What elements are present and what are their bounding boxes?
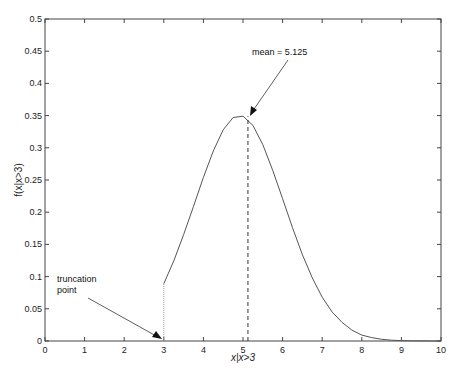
x-tick-label: 7 <box>320 345 325 355</box>
y-tick-label: 0.05 <box>24 304 42 314</box>
plot-frame <box>45 19 441 341</box>
y-axis-label: f(x|x>3) <box>13 163 24 196</box>
x-tick-label: 10 <box>436 345 446 355</box>
x-tick-label: 1 <box>82 345 87 355</box>
x-tick-label: 0 <box>42 345 47 355</box>
y-tick-label: 0.4 <box>29 78 42 88</box>
truncation-annotation-line1: truncation <box>57 274 97 284</box>
plot-area-frame <box>45 19 441 341</box>
truncation-arrowhead-icon <box>152 331 162 339</box>
y-tick-label: 0.3 <box>29 143 42 153</box>
x-tick-label: 4 <box>201 345 206 355</box>
mean-arrow <box>252 60 288 112</box>
y-tick-label: 0 <box>37 336 42 346</box>
y-tick-label: 0.25 <box>24 175 42 185</box>
x-tick-label: 2 <box>122 345 127 355</box>
y-tick-label: 0.15 <box>24 239 42 249</box>
density-curve <box>164 116 441 341</box>
truncated-density-chart: 01234567891000.050.10.150.20.250.30.350.… <box>0 0 456 376</box>
x-tick-label: 9 <box>399 345 404 355</box>
y-tick-label: 0.2 <box>29 207 42 217</box>
x-axis-label: x|x>3 <box>230 352 255 363</box>
axis-ticks <box>45 19 441 341</box>
truncation-arrow <box>88 298 158 337</box>
y-tick-label: 0.1 <box>29 272 42 282</box>
y-tick-label: 0.5 <box>29 14 42 24</box>
y-tick-label: 0.35 <box>24 111 42 121</box>
x-tick-label: 3 <box>161 345 166 355</box>
mean-annotation: mean = 5.125 <box>252 47 307 57</box>
mean-arrowhead-icon <box>250 106 257 116</box>
y-tick-label: 0.45 <box>24 46 42 56</box>
x-tick-label: 6 <box>280 345 285 355</box>
x-tick-label: 8 <box>359 345 364 355</box>
axis-tick-labels: 01234567891000.050.10.150.20.250.30.350.… <box>24 14 446 355</box>
truncation-annotation-line2: point <box>57 285 77 295</box>
